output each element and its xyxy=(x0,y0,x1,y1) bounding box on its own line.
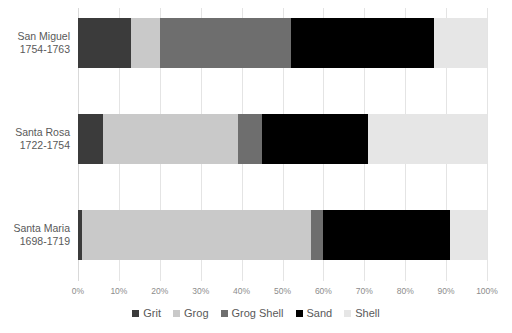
x-tick-label: 0% xyxy=(72,286,84,296)
category-label-line2: 1754-1763 xyxy=(0,43,70,56)
x-tick-label: 30% xyxy=(192,286,209,296)
plot-area xyxy=(78,8,487,281)
category-label-line1: Santa Rosa xyxy=(15,126,70,138)
category-label-line2: 1722-1754 xyxy=(0,139,70,152)
bar-segment-sand xyxy=(323,210,450,260)
legend-swatch-icon xyxy=(132,310,139,317)
bar-row xyxy=(78,18,487,68)
bar-segment-grit xyxy=(78,18,131,68)
bar-segment-grog xyxy=(103,114,238,164)
legend-label: Shell xyxy=(355,307,379,319)
legend-swatch-icon xyxy=(221,310,228,317)
stacked-bar-chart: San Miguel 1754-1763 Santa Rosa 1722-175… xyxy=(0,0,512,333)
category-label-san-miguel: San Miguel 1754-1763 xyxy=(0,30,70,56)
legend-label: Grit xyxy=(143,307,161,319)
legend-swatch-icon xyxy=(296,310,303,317)
bar-segment-sand xyxy=(262,114,368,164)
bar-segment-grog-shell xyxy=(238,114,263,164)
bar-rows xyxy=(78,8,487,281)
bar-segment-grog-shell xyxy=(160,18,291,68)
x-tick-label: 10% xyxy=(110,286,127,296)
legend-label: Sand xyxy=(307,307,333,319)
gridline xyxy=(487,8,488,281)
bar-row xyxy=(78,210,487,260)
bar-row xyxy=(78,114,487,164)
x-tick-label: 80% xyxy=(397,286,414,296)
bar-segment-shell xyxy=(434,18,487,68)
x-tick-label: 70% xyxy=(356,286,373,296)
bar-segment-shell xyxy=(450,210,487,260)
x-axis-tick-labels: 0%10%20%30%40%50%60%70%80%90%100% xyxy=(78,286,487,300)
legend-swatch-icon xyxy=(173,310,180,317)
legend-item-shell[interactable]: Shell xyxy=(344,307,379,319)
legend-swatch-icon xyxy=(344,310,351,317)
x-tick-label: 50% xyxy=(274,286,291,296)
legend-item-grit[interactable]: Grit xyxy=(132,307,161,319)
category-label-line1: San Miguel xyxy=(17,30,70,42)
category-label-santa-maria: Santa Maria 1698-1719 xyxy=(0,222,70,248)
legend-item-grog[interactable]: Grog xyxy=(173,307,208,319)
x-tick-label: 100% xyxy=(476,286,498,296)
bar-segment-grog-shell xyxy=(311,210,323,260)
category-label-line2: 1698-1719 xyxy=(0,235,70,248)
x-tick-label: 40% xyxy=(233,286,250,296)
chart-legend: GritGrogGrog ShellSandShell xyxy=(0,307,512,319)
bar-segment-sand xyxy=(291,18,434,68)
legend-item-grog-shell[interactable]: Grog Shell xyxy=(221,307,284,319)
bar-segment-grit xyxy=(78,114,103,164)
x-tick-label: 60% xyxy=(315,286,332,296)
category-axis-labels: San Miguel 1754-1763 Santa Rosa 1722-175… xyxy=(0,8,74,281)
bar-segment-grog xyxy=(131,18,160,68)
category-label-line1: Santa Maria xyxy=(13,222,70,234)
bar-segment-grog xyxy=(82,210,311,260)
x-tick-label: 90% xyxy=(438,286,455,296)
bar-segment-shell xyxy=(368,114,487,164)
category-label-santa-rosa: Santa Rosa 1722-1754 xyxy=(0,126,70,152)
x-tick-label: 20% xyxy=(151,286,168,296)
legend-label: Grog Shell xyxy=(232,307,284,319)
legend-item-sand[interactable]: Sand xyxy=(296,307,333,319)
legend-label: Grog xyxy=(184,307,208,319)
